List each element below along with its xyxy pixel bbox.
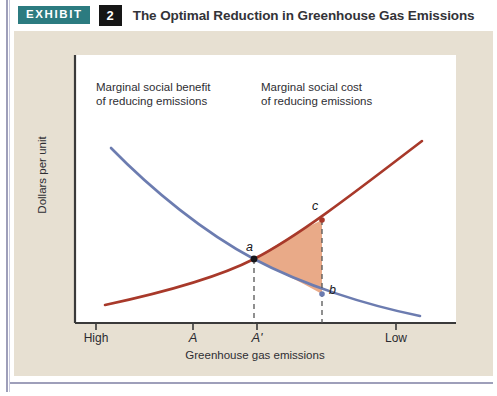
msb-curve-label: Marginal social benefit of reducing emis…	[96, 80, 210, 108]
exhibit-number-badge: 2	[99, 5, 122, 26]
x-tick-label-high: High	[66, 331, 126, 345]
footer-caption-clipped	[14, 386, 493, 396]
shaded-deadweight-triangle	[254, 220, 322, 294]
point-label-c: c	[312, 199, 318, 213]
point-a-marker	[251, 256, 258, 263]
page-left-rule-secondary	[9, 0, 10, 392]
page-left-rule	[6, 0, 8, 392]
point-label-b: b	[329, 283, 336, 297]
msb-curve	[111, 148, 420, 316]
figure-page: EXHIBIT 2 The Optimal Reduction in Green…	[0, 0, 497, 396]
figure-panel: Marginal social benefit of reducing emis…	[14, 31, 493, 376]
x-axis-title: Greenhouse gas emissions	[135, 349, 375, 361]
x-tick-label-low: Low	[366, 331, 426, 345]
point-label-a: a	[246, 240, 253, 254]
point-b-marker	[319, 291, 325, 297]
exhibit-badge: EXHIBIT	[18, 6, 90, 24]
point-c-marker	[319, 217, 325, 223]
x-tick-label-a: A	[163, 330, 223, 345]
exhibit-header: EXHIBIT 2 The Optimal Reduction in Green…	[14, 2, 492, 28]
footer-rule	[10, 382, 493, 384]
msc-curve	[105, 141, 422, 305]
x-tick-label-a-prime: A'	[227, 330, 287, 345]
y-axis-title: Dollars per unit	[36, 100, 48, 250]
msc-curve-label: Marginal social cost of reducing emissio…	[261, 80, 372, 108]
exhibit-title: The Optimal Reduction in Greenhouse Gas …	[133, 8, 475, 23]
